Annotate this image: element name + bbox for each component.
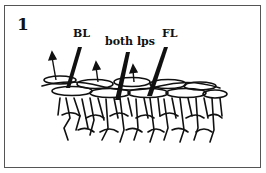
crochet-stitch-diagram [0,0,266,173]
stitch-body-rows [58,98,222,142]
hook-and-arrows [49,47,168,100]
